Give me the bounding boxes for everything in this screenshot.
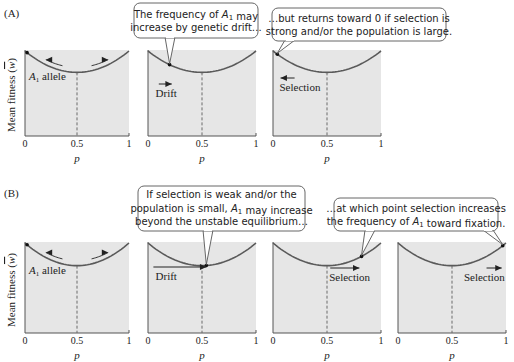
panel-B2: 00.51pDrift — [146, 242, 259, 361]
callout-bubble-a3: …but returns toward 0 if selection isstr… — [266, 8, 452, 53]
section-label-A: (A) — [4, 7, 20, 20]
callout-text-line: beyond the unstable equilibrium… — [135, 216, 308, 227]
selection-label: Selection — [279, 81, 320, 93]
callout-text: …but returns toward 0 if selection is — [268, 13, 450, 24]
population-state-dot — [25, 51, 29, 55]
x-tick-label: 1 — [127, 138, 132, 149]
adaptive-landscape-figure: (A)(B)Mean fitness (w)00.51pA1 allele00.… — [0, 0, 514, 362]
callout-text-line: …at which point selection increases — [326, 203, 506, 214]
callout-seam — [204, 229, 212, 231]
callout-seam — [286, 39, 294, 41]
callout-text: toward fixation. — [424, 218, 506, 229]
callout-text: …at which point selection increases — [326, 203, 506, 214]
allele-symbol: A — [221, 9, 229, 20]
x-tick-label: 0.5 — [196, 138, 209, 149]
allele-word: allele — [39, 70, 66, 82]
drift-label: Drift — [156, 87, 177, 99]
allele-label: A1 allele — [28, 70, 66, 84]
x-tick-label: 0.5 — [321, 138, 334, 149]
x-tick-label: 1 — [504, 335, 509, 346]
callout-seam — [166, 36, 174, 38]
x-axis-label: p — [323, 349, 330, 361]
x-tick-label: 0.5 — [71, 335, 84, 346]
x-tick-label: 1 — [254, 138, 259, 149]
allele-symbol: A — [230, 203, 238, 214]
callout-text-line: strong and/or the population is large. — [266, 26, 452, 37]
x-tick-label: 0 — [396, 335, 401, 346]
panel-B1: 00.51pA1 allele — [23, 242, 132, 361]
row-A: Mean fitness (w)00.51pA1 allele00.51pDri… — [5, 50, 384, 164]
allele-word: allele — [39, 264, 66, 276]
drift-label: Drift — [156, 270, 177, 282]
callout-text-line: …but returns toward 0 if selection is — [268, 13, 450, 24]
callout-text: may — [233, 11, 258, 22]
x-tick-label: 0 — [23, 138, 28, 149]
x-tick-label: 0 — [271, 138, 276, 149]
x-tick-label: 0 — [146, 138, 151, 149]
x-tick-label: 0 — [146, 335, 151, 346]
callout-text: may increase — [242, 205, 312, 216]
callout-text: beyond the unstable equilibrium… — [135, 216, 308, 227]
x-tick-label: 0 — [271, 335, 276, 346]
x-axis-label: p — [198, 152, 205, 164]
allele-symbol: A — [411, 216, 419, 227]
callout-text-line: If selection is weak and/or the — [146, 189, 296, 200]
x-tick-label: 0.5 — [321, 335, 334, 346]
y-axis-label-close: ) — [5, 58, 18, 62]
y-axis-label-close: ) — [5, 253, 18, 257]
panel-A2: 00.51pDrift — [146, 50, 259, 164]
x-axis-label: p — [73, 152, 80, 164]
x-axis-label: p — [73, 349, 80, 361]
x-tick-label: 0.5 — [196, 335, 209, 346]
x-axis-label: p — [323, 152, 330, 164]
y-axis-label-text: Mean fitness ( — [5, 69, 18, 132]
x-tick-label: 0.5 — [71, 138, 84, 149]
x-axis-label: p — [448, 349, 455, 361]
population-state-dot — [25, 243, 29, 247]
selection-label: Selection — [329, 271, 370, 283]
selection-label: Selection — [464, 271, 505, 283]
y-axis-label: Mean fitness (w) — [5, 253, 18, 327]
panel-B4: 00.51pSelection — [396, 242, 509, 361]
x-tick-label: 1 — [379, 138, 384, 149]
panel-A1: 00.51pA1 allele — [23, 50, 132, 164]
panel-B3: 00.51pSelection — [271, 242, 384, 361]
panel-A3: 00.51pSelection — [271, 50, 384, 164]
x-tick-label: 0.5 — [446, 335, 459, 346]
callout-text: strong and/or the population is large. — [266, 26, 452, 37]
x-tick-label: 0 — [23, 335, 28, 346]
callout-text: If selection is weak and/or the — [146, 189, 296, 200]
callout-seam — [484, 229, 492, 231]
row-B: Mean fitness (w)00.51pA1 allele00.51pDri… — [5, 242, 509, 361]
section-label-B: (B) — [4, 187, 19, 200]
x-tick-label: 1 — [127, 335, 132, 346]
callout-text: The frequency of — [133, 9, 222, 20]
x-tick-label: 1 — [254, 335, 259, 346]
x-tick-label: 1 — [379, 335, 384, 346]
callout-text: population is small, — [130, 203, 231, 214]
x-axis-label: p — [198, 349, 205, 361]
y-axis-label-text: Mean fitness ( — [5, 264, 18, 327]
callout-text: increase by genetic drift… — [130, 22, 262, 33]
callout-text-line: increase by genetic drift… — [130, 22, 262, 33]
callout-seam — [366, 229, 374, 231]
callout-text: the frequency of — [327, 216, 413, 227]
y-axis-label: Mean fitness (w) — [5, 58, 18, 132]
allele-label: A1 allele — [28, 264, 66, 278]
